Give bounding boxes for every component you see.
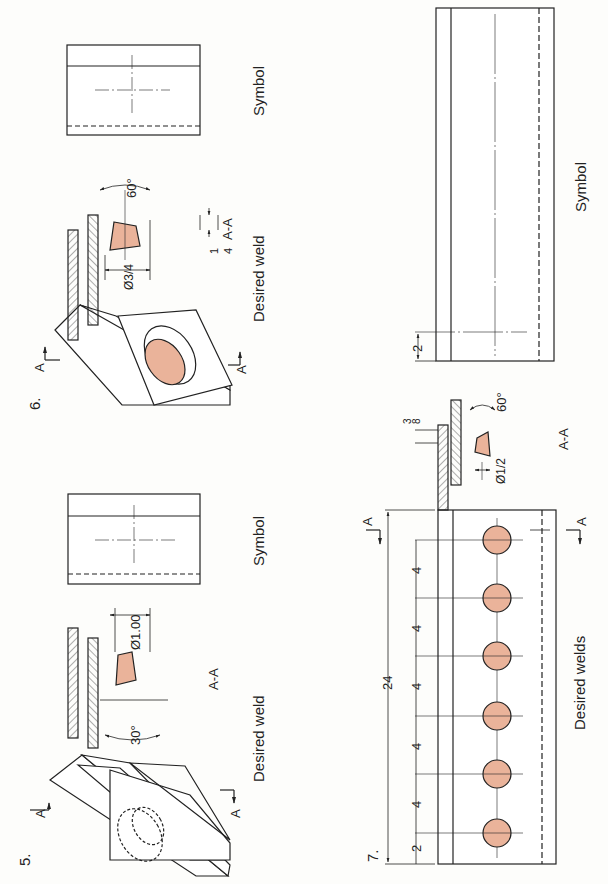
problem-7-spacing-1: 4 xyxy=(409,801,424,808)
problem-6: 6. A A 60° Ø3/4 1 4 A-A Desired weld xyxy=(26,45,267,410)
problem-7-first-offset: 2 xyxy=(409,845,424,852)
problem-7: 7. 24 2 4 4 4 4 4 A A Desired welds 60° … xyxy=(360,8,589,864)
problem-6-number: 6. xyxy=(26,397,43,410)
problem-7-spacing-5: 4 xyxy=(409,567,424,574)
problem-6-section-label: A-A xyxy=(220,218,235,240)
problem-6-diameter: Ø3/4 xyxy=(122,264,136,290)
problem-7-section-label: A-A xyxy=(556,428,571,450)
problem-5-label-a-top: A xyxy=(33,809,48,818)
problem-6-depth: 1 xyxy=(208,248,220,254)
problem-6-angle: 60° xyxy=(124,178,139,198)
problem-7-weld-plan xyxy=(366,510,580,864)
problem-7-symbol-box xyxy=(415,8,554,361)
problem-5-number: 5. xyxy=(16,853,33,866)
problem-7-depth-den: 8 xyxy=(411,418,422,424)
problem-6-label-a-bottom: A xyxy=(234,365,249,374)
problem-5: 5. A A Ø1.00 30° A-A Desired weld Symbol xyxy=(16,494,267,876)
problem-7-spacing-3: 4 xyxy=(409,683,424,690)
drawing-sheet: 5. A A Ø1.00 30° A-A Desired weld Symbol xyxy=(0,0,608,884)
problem-6-caption-symbol: Symbol xyxy=(250,66,267,116)
problem-7-label-a-left: A xyxy=(360,517,375,526)
problem-7-section-view xyxy=(415,400,495,510)
problem-7-overall-length: 24 xyxy=(380,676,395,690)
problem-5-caption-weld: Desired weld xyxy=(250,695,267,782)
problem-7-caption-weld: Desired welds xyxy=(571,636,588,730)
problem-7-spacing-4: 4 xyxy=(409,625,424,632)
problem-7-symbol-offset: 2 xyxy=(410,345,425,352)
problem-7-caption-symbol: Symbol xyxy=(572,162,589,212)
problem-5-section-view xyxy=(68,608,168,748)
problem-5-section-label: A-A xyxy=(206,668,221,690)
problem-6-symbol-box xyxy=(67,45,200,135)
problem-7-label-a-right: A xyxy=(574,517,589,526)
problem-5-isometric-view xyxy=(30,755,234,876)
problem-6-label-a-top: A xyxy=(32,363,47,372)
problem-7-number: 7. xyxy=(364,849,381,862)
problem-5-symbol-box xyxy=(68,494,200,584)
problem-6-depth-den: 4 xyxy=(222,248,234,254)
problem-7-spacing-2: 4 xyxy=(409,743,424,750)
problem-7-angle: 60° xyxy=(494,392,509,412)
problem-5-caption-symbol: Symbol xyxy=(250,516,267,566)
problem-5-angle: 30° xyxy=(128,725,143,745)
problem-5-diameter: Ø1.00 xyxy=(128,615,143,650)
problem-6-caption-weld: Desired weld xyxy=(250,235,267,322)
problem-5-label-a-bottom: A xyxy=(228,809,243,818)
problem-7-diameter: Ø1/2 xyxy=(494,458,508,484)
